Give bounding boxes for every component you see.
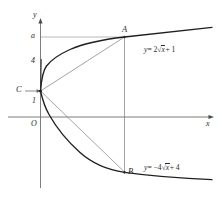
curve-upper-const: + 1 [165,45,175,54]
math-graph-figure: y x O a 4 1 A B C y= 2√x+ 1 y= −4√x+ 4 [0,0,222,200]
curves [41,27,213,179]
curve-upper-coef: = 2 [147,45,157,54]
y-tick-label-a: a [31,32,35,40]
point-label-A: A [122,25,127,34]
curve-lower-minus4sqrtx-plus-4 [41,91,213,180]
curve-lower-const: + 4 [170,163,180,172]
curve-equation-upper: y= 2√x+ 1 [144,45,175,54]
y-axis-arrowhead [38,18,42,24]
y-tick-label-4: 4 [31,57,35,65]
helper-lines [25,36,125,174]
axes [8,18,214,188]
point-label-B: B [128,167,133,176]
y-axis-label: y [33,11,37,19]
point-marker-A [123,36,125,38]
curve-lower-coef: = −4 [147,163,161,172]
curve-equation-lower: y= −4√x+ 4 [144,163,180,172]
chord-C-to-B [41,91,125,172]
point-marker-C [39,90,42,93]
x-axis-label: x [206,120,210,128]
point-marker-B [123,171,125,173]
point-label-C: C [16,85,22,94]
y-tick-label-1: 1 [32,97,36,105]
point-markers [39,36,126,174]
origin-label: O [31,120,37,128]
